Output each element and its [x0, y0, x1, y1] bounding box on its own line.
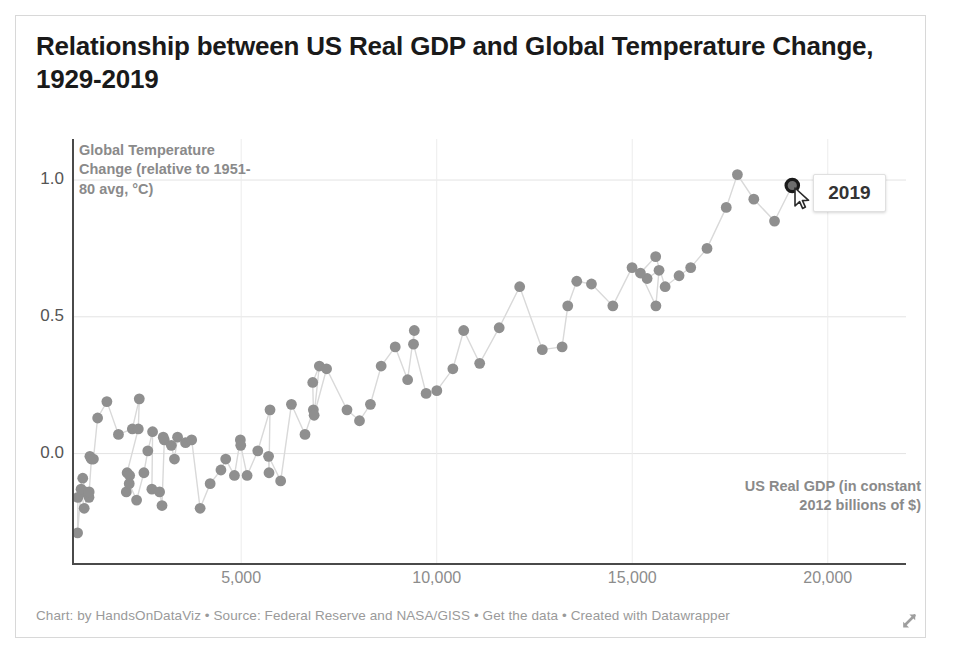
- resize-handle-icon[interactable]: [900, 612, 918, 630]
- tooltip-label: 2019: [828, 182, 870, 203]
- y-tick-label: 0.5: [16, 306, 64, 326]
- x-axis-line: [72, 563, 906, 565]
- y-axis-title: Global Temperature Change (relative to 1…: [79, 141, 259, 199]
- chart-footer: Chart: by HandsOnDataViz • Source: Feder…: [36, 608, 730, 623]
- x-tick-label: 20,000: [783, 569, 873, 587]
- y-tick-label: 1.0: [16, 169, 64, 189]
- horizontal-gridlines: [74, 180, 906, 454]
- plot-area: 0.00.51.0 5,00010,00015,00020,000 Global…: [16, 16, 927, 639]
- x-axis-title: US Real GDP (in constant 2012 billions o…: [741, 477, 921, 516]
- scatter-plot-svg: [16, 16, 927, 639]
- x-tick-label: 5,000: [196, 569, 286, 587]
- y-tick-label: 0.0: [16, 443, 64, 463]
- point-tooltip: 2019: [813, 174, 885, 212]
- chart-card: Relationship between US Real GDP and Glo…: [15, 15, 926, 638]
- x-tick-label: 10,000: [392, 569, 482, 587]
- connector-line: [78, 175, 793, 533]
- x-tick-label: 15,000: [587, 569, 677, 587]
- vertical-gridlines: [241, 139, 828, 563]
- mouse-cursor-icon: [794, 187, 812, 211]
- y-axis-line: [72, 139, 74, 564]
- data-points: [72, 169, 780, 538]
